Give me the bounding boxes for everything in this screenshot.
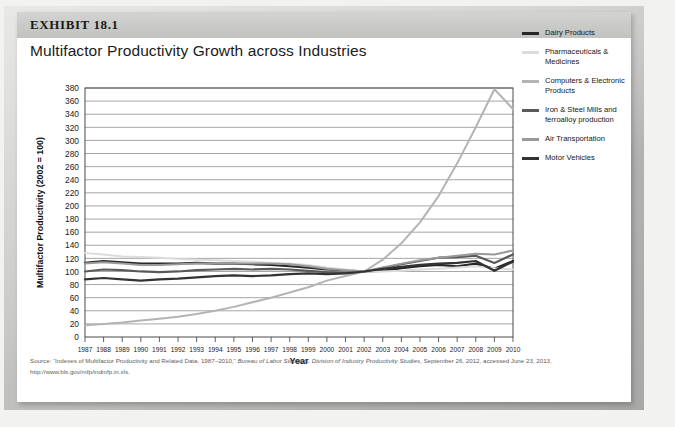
page-title: Multifactor Productivity Growth across I… <box>30 42 367 60</box>
x-axis-tick-label: 2010 <box>506 346 521 353</box>
x-axis-tick-label: 2004 <box>394 346 409 353</box>
data-series-line <box>85 89 513 325</box>
legend-item[interactable]: Pharmaceuticals & Medicines <box>522 47 627 68</box>
legend-label: Motor Vehicles <box>545 153 595 163</box>
y-axis-tick-label: 60 <box>70 293 80 303</box>
y-axis-tick-label: 340 <box>65 109 79 119</box>
x-axis-tick-label: 1995 <box>227 346 242 353</box>
legend-swatch-icon <box>522 80 539 83</box>
source-suffix: , September 26, 2012, accessed June 23, … <box>420 357 552 364</box>
x-axis-tick-label: 2008 <box>468 346 483 353</box>
chart-legend: Dairy ProductsPharmaceuticals & Medicine… <box>522 28 627 171</box>
x-axis-tick-label: 2003 <box>375 346 390 353</box>
source-note: Source: “Indexes of Multifactor Producti… <box>30 356 610 378</box>
x-axis-tick-label: 2005 <box>413 346 428 353</box>
legend-swatch-icon <box>522 157 539 160</box>
x-axis-tick-label: 2007 <box>450 346 465 353</box>
legend-label: Air Transportation <box>545 134 605 144</box>
x-axis-tick-label: 2001 <box>338 346 353 353</box>
y-axis-tick-label: 220 <box>65 188 79 198</box>
y-axis-tick-label: 100 <box>65 267 79 277</box>
y-axis-tick-label: 380 <box>65 83 79 93</box>
legend-label: Pharmaceuticals & Medicines <box>545 47 627 68</box>
y-axis-tick-label: 120 <box>65 254 79 264</box>
x-axis-tick-label: 1993 <box>189 346 204 353</box>
source-publisher: Bureau of Labor Statistics, Division of … <box>237 357 420 364</box>
y-axis-tick-label: 0 <box>74 332 79 342</box>
legend-label: Dairy Products <box>545 28 595 38</box>
exhibit-card: EXHIBIT 18.1 Multifactor Productivity Gr… <box>17 12 631 402</box>
y-axis-tick-label: 80 <box>70 280 80 290</box>
x-axis-tick-label: 1992 <box>171 346 186 353</box>
y-axis-tick-label: 280 <box>65 149 79 159</box>
y-axis-tick-label: 180 <box>65 214 79 224</box>
x-axis-tick-label: 1997 <box>264 346 279 353</box>
plot-border <box>85 88 513 337</box>
exhibit-number: EXHIBIT 18.1 <box>30 17 119 33</box>
source-prefix: Source: “Indexes of Multifactor Producti… <box>30 357 237 364</box>
legend-swatch-icon <box>522 51 539 54</box>
x-axis-tick-label: 1999 <box>301 346 316 353</box>
x-axis-tick-label: 2006 <box>431 346 446 353</box>
y-axis-tick-label: 300 <box>65 136 79 146</box>
y-axis-tick-label: 320 <box>65 123 79 133</box>
legend-item[interactable]: Computers & Electronic Products <box>522 76 627 97</box>
x-axis-tick-label: 1998 <box>282 346 297 353</box>
y-axis-tick-label: 260 <box>65 162 79 172</box>
y-axis-tick-label: 20 <box>70 319 80 329</box>
legend-swatch-icon <box>522 32 539 35</box>
x-axis-tick-label: 2002 <box>357 346 372 353</box>
exhibit-page: EXHIBIT 18.1 Multifactor Productivity Gr… <box>0 0 675 427</box>
y-axis-tick-label: 140 <box>65 240 79 250</box>
legend-swatch-icon <box>522 138 539 141</box>
x-axis-tick-label: 1994 <box>208 346 223 353</box>
x-axis-tick-label: 2009 <box>487 346 502 353</box>
y-axis-title: Multifactor Productivity (2002 = 100) <box>35 137 45 288</box>
legend-item[interactable]: Air Transportation <box>522 134 627 144</box>
legend-item[interactable]: Iron & Steel Mills and ferroalloy produc… <box>522 105 627 126</box>
x-axis-tick-label: 1996 <box>245 346 260 353</box>
x-axis-tick-label: 2000 <box>320 346 335 353</box>
y-axis-tick-label: 160 <box>65 227 79 237</box>
x-axis-tick-label: 1987 <box>78 346 93 353</box>
x-axis-tick-label: 1990 <box>133 346 148 353</box>
legend-label: Computers & Electronic Products <box>545 76 627 97</box>
y-axis-tick-label: 200 <box>65 201 79 211</box>
x-axis-tick-label: 1991 <box>152 346 167 353</box>
source-line-1: Source: “Indexes of Multifactor Producti… <box>30 357 552 364</box>
x-axis-tick-label: 1989 <box>115 346 130 353</box>
y-axis-tick-label: 240 <box>65 175 79 185</box>
legend-item[interactable]: Motor Vehicles <box>522 153 627 163</box>
source-url: http://www.bls.gov/mfp/indmfp.in.xls. <box>30 368 130 375</box>
x-axis-tick-label: 1988 <box>96 346 111 353</box>
y-axis-tick-label: 360 <box>65 96 79 106</box>
legend-label: Iron & Steel Mills and ferroalloy produc… <box>545 105 627 126</box>
legend-swatch-icon <box>522 109 539 112</box>
y-axis-tick-label: 40 <box>70 306 80 316</box>
legend-item[interactable]: Dairy Products <box>522 28 627 38</box>
